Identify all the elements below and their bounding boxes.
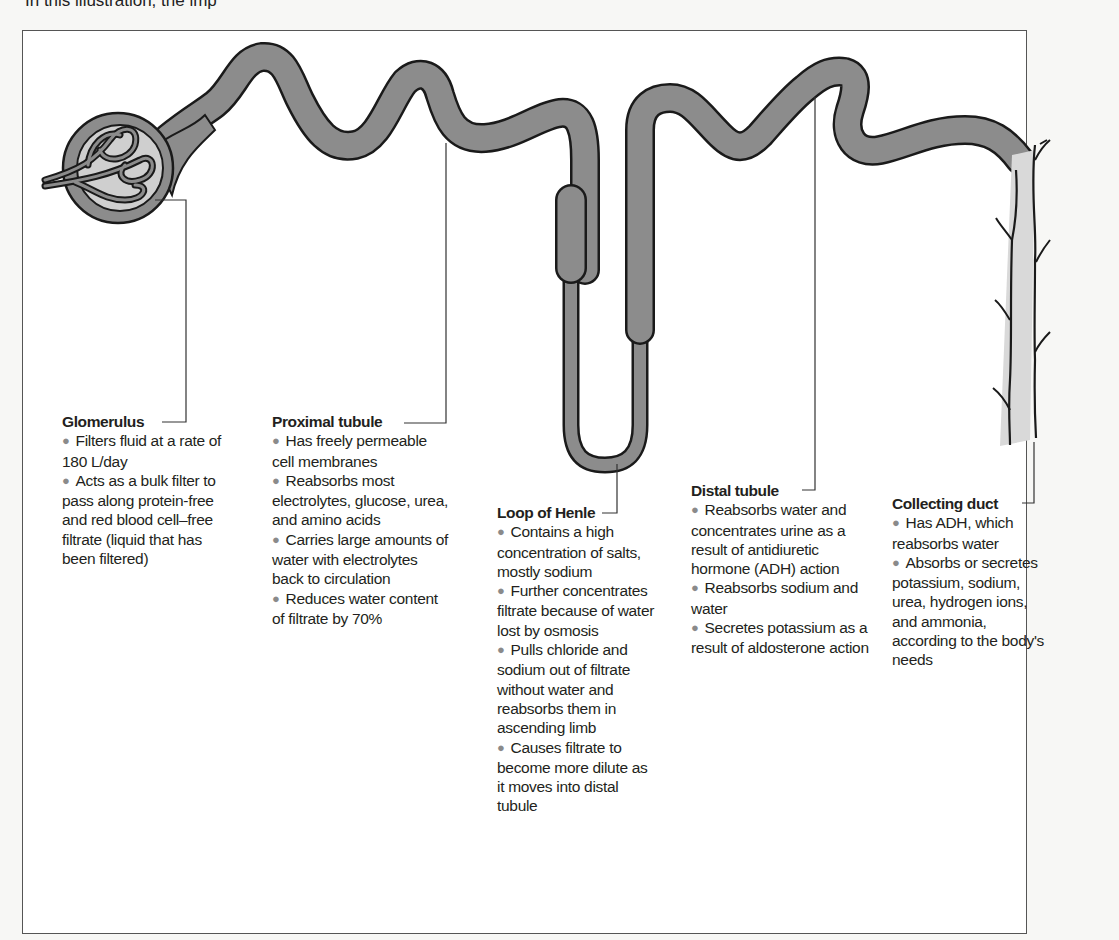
proximal-tubule-bullet: ●Reabsorbs most electrolytes, glucose, u…: [272, 471, 452, 530]
loop-of-henle-bullet: ●Pulls chloride and sodium out of filtra…: [497, 640, 657, 737]
loop-of-henle-title: Loop of Henle: [497, 503, 657, 522]
distal-tubule-bullet: ●Secretes potassium as a result of aldos…: [691, 618, 871, 658]
glomerulus-bullet: ●Acts as a bulk filter to pass along pro…: [62, 471, 222, 568]
collecting-duct-bullet: ●Has ADH, which reabsorbs water: [892, 513, 1052, 553]
proximal-tubule-bullet: ●Has freely permeable cell membranes: [272, 431, 452, 471]
glomerulus-shape: [45, 113, 215, 223]
glomerulus-bullet: ●Filters fluid at a rate of 180 L/day: [62, 431, 222, 471]
label-glomerulus: Glomerulus ●Filters fluid at a rate of 1…: [62, 412, 222, 568]
bullet-dot-icon: ●: [497, 524, 505, 539]
bullet-dot-icon: ●: [62, 473, 70, 488]
collecting-duct-title: Collecting duct: [892, 494, 1052, 513]
loop-of-henle-bullet: ●Causes filtrate to become more dilute a…: [497, 738, 657, 816]
proximal-tubule-bullet: ●Carries large amounts of water with ele…: [272, 530, 452, 589]
nephron-tubule: [168, 57, 1020, 465]
bullet-dot-icon: ●: [497, 583, 505, 598]
bullet-dot-icon: ●: [892, 515, 900, 530]
proximal-tubule-title: Proximal tubule: [272, 412, 452, 431]
bullet-dot-icon: ●: [691, 620, 699, 635]
distal-tubule-bullet: ●Reabsorbs sodium and water: [691, 578, 871, 618]
collecting-duct-bullet: ●Absorbs or secretes potassium, sodium, …: [892, 553, 1052, 670]
proximal-tubule-bullet: ●Reduces water content of filtrate by 70…: [272, 589, 452, 629]
label-loop-of-henle: Loop of Henle ●Contains a high concentra…: [497, 503, 657, 816]
bullet-dot-icon: ●: [497, 740, 505, 755]
bullet-dot-icon: ●: [497, 642, 505, 657]
bullet-dot-icon: ●: [272, 591, 280, 606]
glomerulus-title: Glomerulus: [62, 412, 222, 431]
bullet-dot-icon: ●: [272, 433, 280, 448]
bullet-dot-icon: ●: [62, 433, 70, 448]
label-distal-tubule: Distal tubule ●Reabsorbs water and conce…: [691, 481, 871, 658]
bullet-dot-icon: ●: [272, 473, 280, 488]
loop-of-henle-bullet: ●Contains a high concentration of salts,…: [497, 522, 657, 581]
bullet-dot-icon: ●: [691, 502, 699, 517]
loop-of-henle-bullet: ●Further concentrates filtrate because o…: [497, 581, 657, 640]
bullet-dot-icon: ●: [691, 580, 699, 595]
distal-tubule-bullet: ●Reabsorbs water and concentrates urine …: [691, 500, 871, 578]
label-proximal-tubule: Proximal tubule ●Has freely permeable ce…: [272, 412, 452, 628]
distal-tubule-title: Distal tubule: [691, 481, 871, 500]
bullet-dot-icon: ●: [272, 532, 280, 547]
label-collecting-duct: Collecting duct ●Has ADH, which reabsorb…: [892, 494, 1052, 670]
bullet-dot-icon: ●: [892, 555, 900, 570]
collecting-duct-shape: [993, 140, 1050, 446]
